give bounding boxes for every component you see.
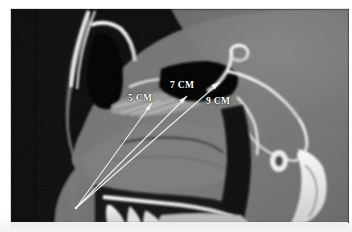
ct-scan-svg bbox=[11, 9, 349, 223]
ct-noise-overlay bbox=[11, 9, 349, 223]
ct-scan-image bbox=[10, 8, 349, 223]
figure-container: 5 CM 7 CM 9 CM bbox=[0, 0, 352, 232]
measurement-vertex bbox=[75, 207, 78, 210]
figure-bottom-strip bbox=[10, 222, 348, 228]
